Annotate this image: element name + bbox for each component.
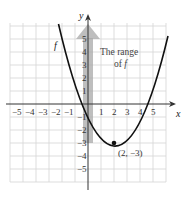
x-tick: 1 <box>99 107 104 117</box>
vertex-point <box>112 141 117 146</box>
y-axis-label: y <box>78 10 84 21</box>
x-tick: −1 <box>64 107 74 117</box>
y-tick: −2 <box>77 125 87 135</box>
y-tick: −5 <box>77 164 87 174</box>
x-tick: −3 <box>38 107 48 117</box>
x-tick: −2 <box>51 107 61 117</box>
range-annotation-line2: of f <box>114 59 128 69</box>
range-annotation-line1: The range <box>100 47 138 57</box>
x-tick: 5 <box>151 107 156 117</box>
y-tick: 1 <box>82 86 87 96</box>
x-axis-label: x <box>175 108 181 119</box>
function-label: f <box>54 40 58 51</box>
y-tick: 5 <box>82 34 87 44</box>
x-tick: −4 <box>25 107 35 117</box>
y-tick: −1 <box>77 112 87 122</box>
y-tick: 3 <box>82 60 87 70</box>
x-tick: −5 <box>12 107 22 117</box>
vertex-label: (2, −3) <box>118 148 143 158</box>
y-tick: 2 <box>82 73 87 83</box>
y-tick: −3 <box>77 138 87 148</box>
x-tick: 4 <box>138 107 143 117</box>
x-tick: 2 <box>112 107 117 117</box>
graph: −5 −4 −3 −2 −1 1 2 3 4 5 5 4 3 2 1 −1 −2… <box>0 0 186 197</box>
y-tick: −4 <box>77 151 87 161</box>
x-tick: 3 <box>125 107 130 117</box>
y-tick: 4 <box>82 47 87 57</box>
